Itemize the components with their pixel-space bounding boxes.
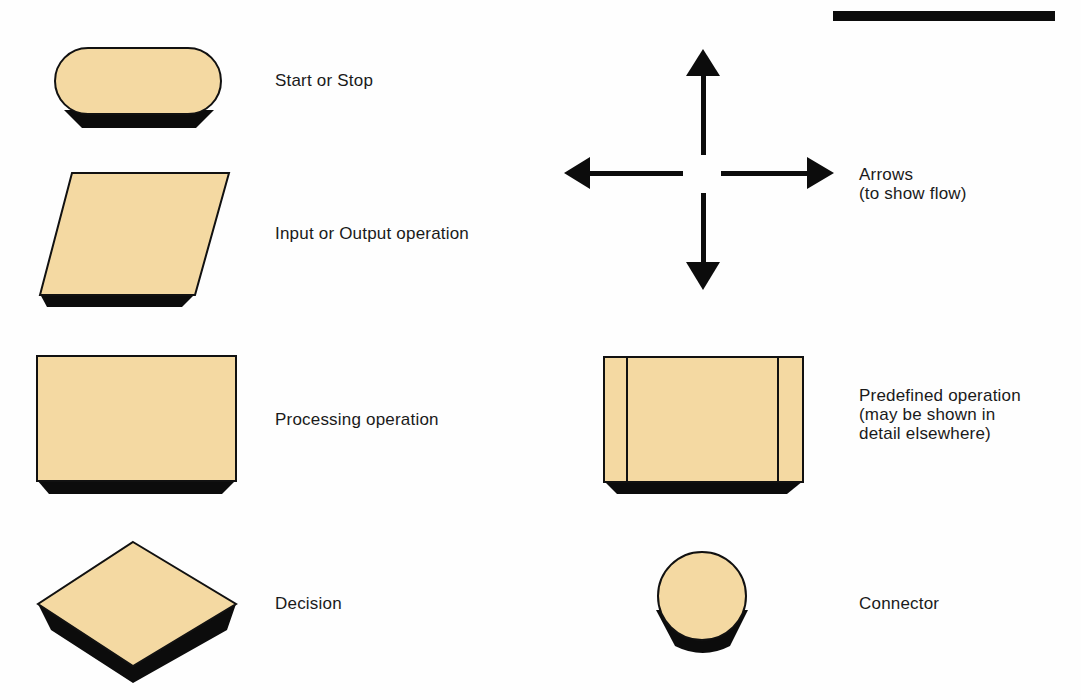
arrows-label: Arrows (to show flow) xyxy=(859,165,967,203)
header-rule xyxy=(833,11,1055,21)
start-stop-icon xyxy=(55,48,221,128)
input-output-label: Input or Output operation xyxy=(275,224,469,243)
connector-label: Connector xyxy=(859,594,939,613)
connector-icon xyxy=(656,552,748,653)
processing-icon xyxy=(37,356,236,494)
arrows-icon xyxy=(564,49,834,290)
predefined-operation-label: Predefined operation (may be shown in de… xyxy=(859,386,1021,443)
predefined-operation-icon xyxy=(604,357,803,494)
input-output-icon xyxy=(40,173,229,307)
decision-icon xyxy=(38,542,236,683)
processing-label: Processing operation xyxy=(275,410,439,429)
start-stop-label: Start or Stop xyxy=(275,71,373,90)
decision-label: Decision xyxy=(275,594,342,613)
